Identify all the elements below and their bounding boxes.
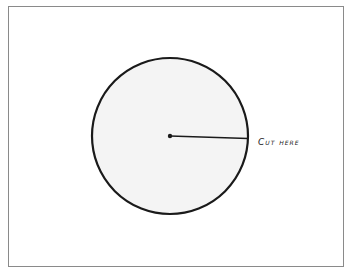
- cut-here-label: Cut here: [258, 137, 299, 147]
- center-point: [168, 134, 172, 138]
- circle-diagram: [0, 0, 354, 275]
